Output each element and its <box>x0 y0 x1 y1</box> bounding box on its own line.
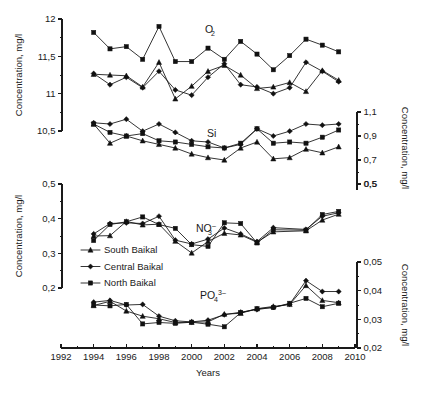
data-point-square <box>173 140 177 144</box>
data-point-diamond <box>287 129 292 134</box>
chart-root: 10,51111,512O20,50,70,91,1Si0,20,30,40,5… <box>13 13 411 378</box>
x-tick-label: 2000 <box>181 351 202 362</box>
y-tick-label: 0,9 <box>364 130 377 141</box>
data-point-square <box>239 39 243 43</box>
y-tick-label: 11 <box>46 88 56 99</box>
data-point-square <box>271 68 275 72</box>
data-point-square <box>320 43 324 47</box>
panel-label-subscript: 4 <box>214 296 218 303</box>
data-point-triangle <box>287 80 292 85</box>
data-point-square <box>239 221 243 225</box>
data-point-square <box>255 127 259 131</box>
data-point-square <box>288 140 292 144</box>
data-point-diamond <box>156 214 161 219</box>
data-point-square <box>141 322 145 326</box>
data-point-triangle <box>173 96 178 101</box>
legend-item-central-baikal[interactable]: Central Baikal <box>81 261 163 272</box>
panel-label-superscript: – <box>212 222 216 229</box>
data-point-square <box>320 305 324 309</box>
data-point-diamond <box>156 121 161 126</box>
data-point-square <box>108 47 112 51</box>
data-point-square <box>288 53 292 57</box>
data-point-square <box>239 311 243 315</box>
panel-o2: 10,51111,512 <box>37 13 341 136</box>
panel-label-o: O2 <box>205 23 215 37</box>
data-point-square <box>108 304 112 308</box>
data-point-square <box>337 50 341 54</box>
data-point-square <box>206 322 210 326</box>
x-tick-label: 1998 <box>148 351 169 362</box>
data-point-square <box>157 320 161 324</box>
series-line-south-baikal <box>94 286 339 323</box>
panel-label-superscript: 3– <box>218 289 226 296</box>
data-point-square <box>222 221 226 225</box>
data-point-square <box>271 141 275 145</box>
left-axis-title-top: Concentration, mg/l <box>13 34 24 116</box>
data-point-triangle <box>124 308 129 313</box>
legend-item-north-baikal[interactable]: North Baikal <box>81 277 156 288</box>
data-point-square <box>222 146 226 150</box>
series-line-central-baikal <box>94 213 339 244</box>
left-axis-title-bottom: Concentration, mg/l <box>13 195 24 277</box>
data-point-diamond <box>107 82 112 87</box>
panel-label-po: PO43– <box>200 289 226 304</box>
data-point-diamond <box>320 123 325 128</box>
y-tick-label: 0,04 <box>364 285 383 296</box>
x-axis-title: Years <box>196 367 220 378</box>
panel-label-base: PO <box>200 289 215 301</box>
y-tick-label: 1,1 <box>364 106 377 117</box>
data-point-diamond <box>303 121 308 126</box>
data-point-square <box>173 321 177 325</box>
data-point-triangle <box>336 144 341 149</box>
data-point-triangle <box>156 60 161 65</box>
data-point-triangle <box>189 250 194 255</box>
y-tick-label: 0,2 <box>42 282 55 293</box>
legend-item-south-baikal[interactable]: South Baikal <box>81 244 157 255</box>
data-point-triangle <box>222 231 227 236</box>
data-point-square <box>271 305 275 309</box>
data-point-square <box>108 130 112 134</box>
data-point-diamond <box>271 133 276 138</box>
data-point-triangle <box>238 72 243 77</box>
x-tick-label: 2008 <box>312 351 333 362</box>
data-point-square <box>157 24 161 28</box>
panel-si: 0,50,70,91,1 <box>91 106 377 189</box>
data-point-diamond <box>205 139 210 144</box>
data-point-square <box>173 59 177 63</box>
y-tick-label: 0,7 <box>364 154 377 165</box>
data-point-square <box>124 302 128 306</box>
x-tick-label: 1994 <box>83 351 104 362</box>
figure-container: 10,51111,512O20,50,70,91,1Si0,20,30,40,5… <box>0 0 425 396</box>
data-point-square <box>206 244 210 248</box>
y-tick-label: 12 <box>45 13 56 24</box>
panel-label-subscript: 2 <box>211 30 215 37</box>
legend-label-text: Central Baikal <box>104 261 163 272</box>
data-point-square <box>141 57 145 61</box>
x-axis: 1992199419961998200020022004200620082010… <box>50 344 365 379</box>
data-point-square <box>124 45 128 49</box>
data-point-square <box>141 215 145 219</box>
data-point-diamond <box>88 264 93 269</box>
data-point-triangle <box>303 147 308 152</box>
data-point-square <box>88 281 92 285</box>
y-tick-label: 0,3 <box>42 248 55 259</box>
right-axis-title-bottom: Concentration, mg/l <box>400 264 411 346</box>
data-point-diamond <box>173 130 178 135</box>
data-point-diamond <box>271 91 276 96</box>
data-point-square <box>320 135 324 139</box>
data-point-square <box>190 59 194 63</box>
data-point-square <box>92 30 96 34</box>
data-point-square <box>304 37 308 41</box>
data-point-square <box>206 46 210 50</box>
legend-label-text: North Baikal <box>104 277 156 288</box>
data-point-square <box>92 303 96 307</box>
x-tick-label: 2010 <box>344 351 365 362</box>
data-point-triangle <box>336 78 341 83</box>
data-point-square <box>173 226 177 230</box>
x-tick-label: 2004 <box>246 351 267 362</box>
no3-right-stub-axis: 0,5 <box>357 170 377 190</box>
x-tick-label: 1992 <box>50 351 71 362</box>
data-point-diamond <box>287 85 292 90</box>
data-point-square <box>92 238 96 242</box>
panel-no3: 0,20,30,40,5 <box>42 178 341 293</box>
